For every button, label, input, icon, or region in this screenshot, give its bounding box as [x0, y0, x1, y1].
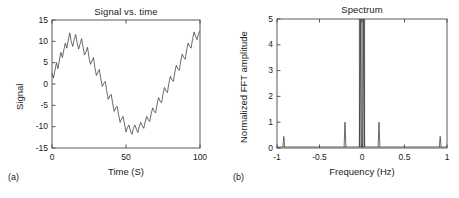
y-tick-label: 5: [24, 57, 48, 67]
y-tick-label: 4: [255, 39, 273, 49]
y-tick-label: 10: [24, 36, 48, 46]
panel-tag-b: (b): [233, 172, 244, 182]
y-tick-label: 0: [255, 143, 273, 153]
spectrum-peak: [283, 136, 285, 147]
figure-container: Signal vs. time Signal Time (S) (a) -15-…: [0, 0, 459, 198]
spectrum-peak: [378, 122, 380, 147]
y-tick-label: -5: [24, 100, 48, 110]
x-tick-label: 0.5: [391, 152, 419, 162]
y-tick-label: -10: [24, 121, 48, 131]
x-tick-label: 1: [433, 152, 459, 162]
y-tick-label: 5: [255, 14, 273, 24]
x-tick-label: -0.5: [306, 152, 334, 162]
x-tick-label: -1: [263, 152, 291, 162]
panel-signal-vs-time: Signal vs. time Signal Time (S) (a) -15-…: [0, 0, 229, 198]
y-tick-label: 2: [255, 91, 273, 101]
spectrum-peak: [344, 122, 346, 147]
x-tick-label: 100: [186, 152, 214, 162]
y-tick-label: 3: [255, 65, 273, 75]
x-tick-label: 50: [112, 152, 140, 162]
y-tick-label: -15: [24, 143, 48, 153]
y-tick-label: 15: [24, 15, 48, 25]
x-axis-label-frequency: Frequency (Hz): [277, 166, 447, 177]
x-tick-label: 0: [38, 152, 66, 162]
panel-tag-a: (a): [8, 172, 19, 182]
x-tick-label: 0: [348, 152, 376, 162]
plot-frame: [277, 19, 447, 148]
y-axis-label-fft-amplitude: Normalized FFT amplitude: [238, 31, 249, 143]
y-tick-label: 0: [24, 79, 48, 89]
spectrum-peak: [439, 136, 441, 147]
signal-trace: [52, 31, 200, 134]
x-axis-label-time: Time (S): [52, 166, 200, 177]
panel-spectrum: Spectrum Normalized FFT amplitude Freque…: [229, 0, 459, 198]
y-tick-label: 1: [255, 117, 273, 127]
